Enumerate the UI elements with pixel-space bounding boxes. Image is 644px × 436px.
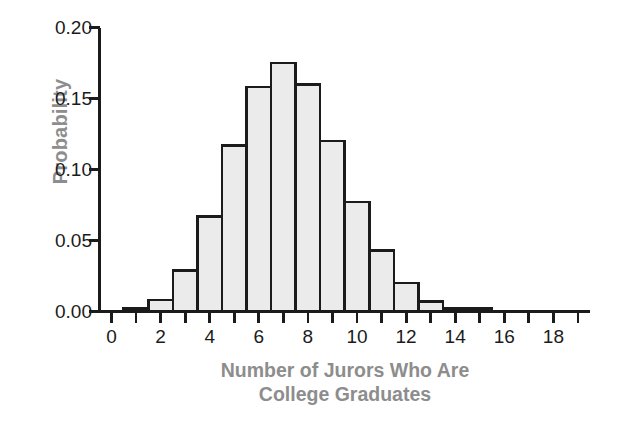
x-tick-label: 10 bbox=[337, 326, 377, 348]
y-tick-label: 0.00 bbox=[22, 301, 92, 323]
y-tick-label: 0.05 bbox=[22, 230, 92, 252]
histogram-bar bbox=[197, 216, 222, 311]
x-tick-label: 14 bbox=[435, 326, 475, 348]
histogram-bar bbox=[296, 84, 321, 311]
histogram-bar bbox=[173, 270, 198, 311]
histogram-bar bbox=[394, 283, 419, 311]
x-tick-label: 4 bbox=[190, 326, 230, 348]
histogram-bar bbox=[418, 302, 443, 312]
histogram-bar bbox=[148, 300, 173, 311]
y-tick-label: 0.15 bbox=[22, 88, 92, 110]
y-tick-label: 0.20 bbox=[22, 17, 92, 39]
histogram-bar bbox=[247, 87, 272, 311]
x-tick-label: 0 bbox=[92, 326, 132, 348]
x-tick-label: 2 bbox=[141, 326, 181, 348]
bars-group bbox=[124, 63, 492, 312]
histogram-bar bbox=[320, 141, 345, 311]
histogram-bar bbox=[345, 202, 370, 311]
histogram-bar bbox=[222, 145, 247, 311]
x-tick-label: 6 bbox=[239, 326, 279, 348]
histogram-bar bbox=[271, 63, 296, 312]
chart-figure: Probability Number of Jurors Who Are Col… bbox=[0, 0, 644, 436]
x-tick-label: 18 bbox=[533, 326, 573, 348]
x-tick-label: 8 bbox=[288, 326, 328, 348]
x-tick-label: 16 bbox=[484, 326, 524, 348]
y-tick-label: 0.10 bbox=[22, 159, 92, 181]
x-tick-label: 12 bbox=[386, 326, 426, 348]
histogram-bar bbox=[369, 250, 394, 311]
histogram-plot bbox=[0, 0, 644, 436]
